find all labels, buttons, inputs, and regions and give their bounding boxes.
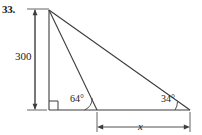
vertical-dimension-label: 300 (15, 51, 32, 62)
figure-drawing (0, 0, 202, 135)
problem-number: 33. (2, 4, 15, 15)
angle-label-left: 64° (70, 94, 84, 104)
angle-arc-34-icon (175, 102, 178, 110)
geometry-figure: 33. 300 64° 34° x (0, 0, 202, 135)
horizontal-dimension-label: x (138, 121, 143, 132)
vertical-dimension-arrow-top-icon (33, 9, 38, 15)
angle-arc-64-icon (85, 98, 93, 110)
right-angle-marker-icon (49, 101, 58, 110)
vertical-dimension-arrow-bottom-icon (33, 104, 38, 110)
horizontal-dimension-arrow-left-icon (97, 125, 103, 130)
angle-label-right: 34° (161, 94, 175, 104)
horizontal-dimension-arrow-right-icon (184, 125, 190, 130)
